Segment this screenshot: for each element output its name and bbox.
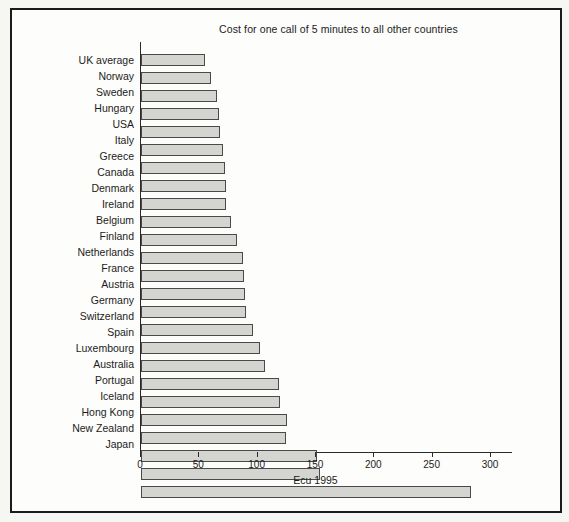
bar (141, 90, 217, 102)
category-label: Switzerland (0, 308, 134, 324)
x-tick-label: 250 (412, 459, 452, 470)
bar (141, 360, 265, 372)
x-tick-label: 0 (120, 459, 160, 470)
category-label: New Zealand (0, 420, 134, 436)
bar (141, 252, 243, 264)
category-label: Hong Kong (0, 404, 134, 420)
bar (141, 396, 280, 408)
bar (141, 144, 223, 156)
bar-row (141, 180, 501, 196)
x-tick-label: 50 (178, 459, 218, 470)
bar-row (141, 144, 501, 160)
category-label: Japan (0, 436, 134, 452)
x-tick-mark (490, 452, 491, 457)
category-label: Italy (0, 132, 134, 148)
category-label: UK average (0, 52, 134, 68)
category-label: USA (0, 116, 134, 132)
category-label: Canada (0, 164, 134, 180)
category-label: Norway (0, 68, 134, 84)
category-label: France (0, 260, 134, 276)
bar (141, 288, 245, 300)
bar-row (141, 216, 501, 232)
category-label: Netherlands (0, 244, 134, 260)
bar (141, 126, 220, 138)
category-label: Iceland (0, 388, 134, 404)
bar (141, 72, 211, 84)
x-tick-label: 200 (353, 459, 393, 470)
bar-row (141, 126, 501, 142)
bar (141, 270, 244, 282)
bar (141, 486, 471, 498)
chart-title: Cost for one call of 5 minutes to all ot… (140, 23, 537, 35)
category-label: Finland (0, 228, 134, 244)
bar-row (141, 342, 501, 358)
bar-row (141, 108, 501, 124)
bar-row (141, 90, 501, 106)
bar (141, 198, 226, 210)
x-tick-label: 100 (237, 459, 277, 470)
category-label: Sweden (0, 84, 134, 100)
bar (141, 324, 253, 336)
bar-row (141, 486, 501, 502)
bar (141, 414, 287, 426)
bar-row (141, 414, 501, 430)
y-axis-labels: UK averageNorwaySwedenHungaryUSAItalyGre… (0, 52, 134, 452)
category-label: Denmark (0, 180, 134, 196)
bar (141, 108, 219, 120)
x-tick-mark (198, 452, 199, 457)
bar-row (141, 360, 501, 376)
x-tick-label: 300 (470, 459, 510, 470)
x-tick-mark (373, 452, 374, 457)
bar-row (141, 252, 501, 268)
category-label: Australia (0, 356, 134, 372)
category-label: Spain (0, 324, 134, 340)
category-label: Ireland (0, 196, 134, 212)
bar-row (141, 198, 501, 214)
bar (141, 378, 279, 390)
x-tick-mark (315, 452, 316, 457)
bar (141, 306, 246, 318)
x-tick-mark (432, 452, 433, 457)
bar-row (141, 306, 501, 322)
x-tick-mark (140, 452, 141, 457)
bar-row (141, 54, 501, 70)
bar (141, 162, 225, 174)
bar-row (141, 234, 501, 250)
bar-row (141, 288, 501, 304)
bar (141, 432, 286, 444)
bar-row (141, 378, 501, 394)
bar (141, 216, 231, 228)
bar-series (141, 52, 501, 502)
category-label: Luxembourg (0, 340, 134, 356)
category-label: Hungary (0, 100, 134, 116)
bar-row (141, 324, 501, 340)
bar (141, 450, 317, 462)
category-label: Germany (0, 292, 134, 308)
category-label: Austria (0, 276, 134, 292)
category-label: Belgium (0, 212, 134, 228)
bar-row (141, 270, 501, 286)
bar (141, 234, 237, 246)
bar-row (141, 162, 501, 178)
x-tick-mark (257, 452, 258, 457)
bar-row (141, 396, 501, 412)
bar (141, 54, 205, 66)
category-label: Portugal (0, 372, 134, 388)
bar-row (141, 432, 501, 448)
bar (141, 180, 226, 192)
bar-row (141, 72, 501, 88)
category-label: Greece (0, 148, 134, 164)
x-axis-title: Ecu 1995 (140, 474, 491, 486)
x-tick-label: 150 (295, 459, 335, 470)
bar (141, 342, 260, 354)
